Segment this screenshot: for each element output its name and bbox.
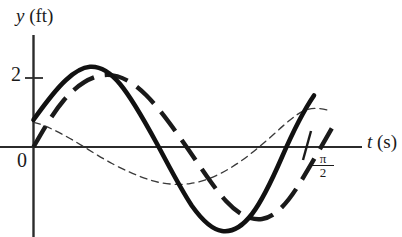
x-axis-unit: (s) [377,131,397,152]
origin-label: 0 [17,150,27,170]
y-tick-label-2: 2 [11,64,21,84]
figure-canvas: y (ft) t (s) 2 0 π 2 [0,0,402,237]
x-tick-pi-over-2 [303,131,311,160]
y-axis-label: y (ft) [16,6,53,25]
x-axis-label: t (s) [367,132,397,151]
pi-numerator: π [312,152,334,166]
y-axis-unit: (ft) [29,5,53,26]
x-tick-label-pi-over-2: π 2 [312,152,334,179]
pi-denominator: 2 [312,166,334,179]
curve-bold-solid [34,67,315,232]
graph-svg [0,0,402,237]
